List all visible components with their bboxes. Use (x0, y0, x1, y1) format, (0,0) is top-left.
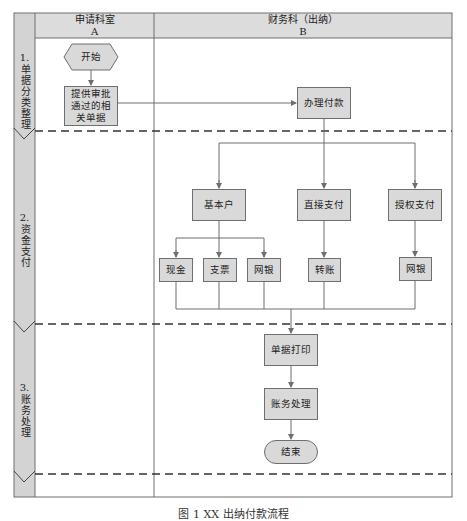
basic-account-node: 基本户 (192, 189, 246, 221)
phase-1-number: 1. (14, 52, 35, 64)
online-bank-node-1: 网银 (247, 258, 281, 282)
submit-docs-line-2: 通过的相 (71, 100, 111, 112)
submit-docs-line-3: 关单据 (76, 112, 106, 124)
end-node: 结束 (264, 440, 318, 464)
check-node: 支票 (203, 258, 237, 282)
lane-title-a: 申请科室 (35, 14, 154, 26)
handle-payment-node: 办理付款 (297, 87, 351, 119)
phase-1-text: 单据分类整理 (19, 64, 31, 130)
phase-2-number: 2. (14, 212, 35, 224)
lane-code-a: A (35, 26, 154, 38)
accounting-node: 账务处理 (264, 388, 318, 420)
direct-payment-node: 直接支付 (297, 189, 351, 221)
submit-docs-line-1: 提供审批 (71, 88, 111, 100)
lane-code-b: B (154, 26, 452, 38)
phase-2-label: 2. 资金支付 (14, 212, 35, 268)
figure-caption: 图 1 XX 出纳付款流程 (0, 505, 467, 521)
lane-header-a: 申请科室 A (35, 14, 154, 38)
print-docs-node: 单据打印 (264, 334, 318, 366)
online-bank-node-2: 网银 (399, 257, 432, 281)
phase-1-label: 1. 单据分类整理 (14, 52, 35, 130)
lane-header-b: 财务科（出纳） B (154, 14, 452, 38)
cash-node: 现金 (159, 258, 193, 282)
phase-3-label: 3. 账务处理 (14, 382, 35, 438)
phase-3-text: 账务处理 (19, 394, 31, 438)
authorized-payment-node: 授权支付 (388, 189, 442, 221)
submit-docs-node: 提供审批 通过的相 关单据 (64, 86, 118, 126)
phase-2-text: 资金支付 (19, 224, 31, 268)
transfer-node: 转账 (308, 258, 341, 282)
start-node: 开始 (64, 44, 118, 70)
phase-3-number: 3. (14, 382, 35, 394)
lane-title-b: 财务科（出纳） (154, 14, 452, 26)
